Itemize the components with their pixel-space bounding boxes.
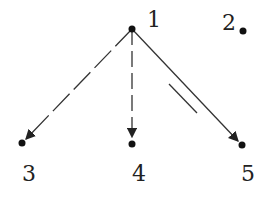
node-label-4: 4 [132, 161, 146, 186]
node-label-5: 5 [241, 161, 255, 186]
edge-1-5-annotation-mark [169, 84, 197, 113]
edge-1-3 [26, 29, 132, 139]
node-label-3: 3 [22, 161, 36, 186]
node-2 [240, 28, 247, 35]
node-3 [19, 140, 26, 147]
node-4 [129, 141, 136, 148]
edge-1-5 [132, 29, 238, 141]
node-label-1: 1 [147, 7, 161, 32]
graph-diagram: 1 2 3 4 5 [0, 0, 265, 204]
node-label-2: 2 [222, 10, 236, 35]
node-1 [129, 26, 136, 33]
node-5 [239, 142, 246, 149]
